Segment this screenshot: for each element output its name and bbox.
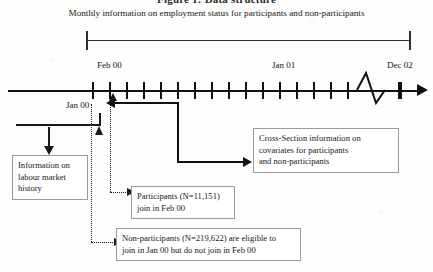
history-period-line <box>16 124 101 126</box>
time-axis-tick <box>262 82 264 99</box>
time-axis-tick <box>211 82 213 99</box>
cross-section-connector-top <box>113 102 179 104</box>
time-axis-tick <box>245 82 247 99</box>
cross-section-box-line: and non-participants <box>259 156 393 168</box>
time-axis-tick <box>347 82 349 99</box>
time-axis-tick <box>398 82 400 99</box>
cross-section-box-line: covariates for participants <box>259 145 393 157</box>
history-box-line: history <box>18 183 82 195</box>
participants-box-line: join in Feb 00 <box>137 203 229 215</box>
non-participants-box-line: Non-participants (N=219,622) are eligibl… <box>122 233 295 245</box>
history-period-end-cap <box>99 113 101 126</box>
non-participants-box: Non-participants (N=219,622) are eligibl… <box>116 228 301 261</box>
time-axis-tick <box>313 82 315 99</box>
axis-label-jan01: Jan 01 <box>272 60 295 70</box>
time-axis-arrowhead-icon <box>417 84 428 96</box>
nonparticipants-connector-horizontal <box>91 242 115 243</box>
figure-title-clipped: Figure 1: Data structure <box>0 0 433 5</box>
cross-section-connector-vertical <box>177 102 179 163</box>
participants-box-line: Participants (N=11,151) <box>137 191 229 203</box>
figure-caption: Monthly information on employment status… <box>0 8 433 18</box>
time-axis-tick <box>92 82 94 99</box>
time-axis-tick <box>126 82 128 99</box>
time-axis-tick <box>194 82 196 99</box>
cross-section-box: Cross-Section information on covariates … <box>253 128 399 173</box>
participants-box: Participants (N=11,151) join in Feb 00 <box>131 186 235 219</box>
time-axis-tick <box>279 82 281 99</box>
time-axis-tick <box>177 82 179 99</box>
time-axis-tick <box>228 82 230 99</box>
coverage-bracket-cap-right <box>409 31 411 50</box>
coverage-bracket-cap-left <box>86 31 88 50</box>
axis-label-dec02: Dec 02 <box>387 60 413 70</box>
axis-break-zigzag-icon <box>355 70 397 106</box>
cross-section-arrow-icon <box>243 157 252 167</box>
history-box-line: Information on <box>18 160 82 172</box>
figure-canvas: Figure 1: Data structure Monthly informa… <box>0 0 433 272</box>
participants-connector-horizontal <box>110 192 128 193</box>
cross-section-box-line: Cross-Section information on <box>259 133 393 145</box>
time-axis-tick <box>160 82 162 99</box>
time-axis-tick <box>400 82 402 99</box>
axis-label-feb00: Feb 00 <box>97 60 122 70</box>
non-participants-box-line: join in Jan 00 but do not join in Feb 00 <box>122 245 295 257</box>
axis-label-jan00: Jan 00 <box>66 100 89 110</box>
history-connector-arrow-icon <box>44 146 54 155</box>
time-axis-tick <box>330 82 332 99</box>
history-period-up-arrow-icon <box>95 126 103 135</box>
coverage-bracket-line <box>86 40 410 41</box>
history-box: Information on labour market history <box>12 155 88 200</box>
time-axis-tick <box>143 82 145 99</box>
participants-connector-vertical <box>110 100 111 192</box>
time-axis-tick <box>296 82 298 99</box>
cross-section-connector-bottom <box>177 161 244 163</box>
nonparticipants-connector-vertical <box>91 104 92 242</box>
history-box-line: labour market <box>18 172 82 184</box>
